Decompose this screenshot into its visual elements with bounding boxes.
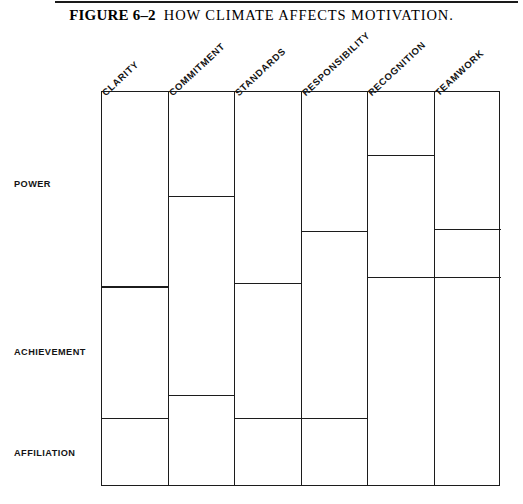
column-divider-2 xyxy=(234,91,235,486)
column-header-commitment: COMMITMENT xyxy=(166,41,226,98)
block-edge-power-recognition xyxy=(367,155,435,156)
block-edge-power-responsibility xyxy=(301,231,368,232)
block-edge-achievement-standards-responsibility xyxy=(234,418,368,419)
block-edge-achievement-commitment xyxy=(168,395,235,396)
row-label-power: POWER xyxy=(14,179,51,189)
column-divider-1 xyxy=(168,91,169,486)
block-edge-achievement-recognition-teamwork xyxy=(367,277,501,278)
row-label-achievement: ACHIEVEMENT xyxy=(14,347,86,357)
block-edge-power-commitment xyxy=(168,196,235,197)
block-edge-power-clarity xyxy=(101,286,169,288)
column-header-responsibility: RESPONSIBILITY xyxy=(299,29,372,98)
column-header-recognition: RECOGNITION xyxy=(365,39,427,98)
block-edge-achievement-clarity xyxy=(101,418,169,419)
column-divider-3 xyxy=(301,91,302,486)
column-divider-4 xyxy=(367,91,368,486)
block-edge-power-teamwork xyxy=(434,229,501,230)
row-label-affiliation: AFFILIATION xyxy=(14,448,75,458)
climate-motivation-matrix: CLARITY COMMITMENT STANDARDS RESPONSIBIL… xyxy=(0,0,523,504)
column-divider-5 xyxy=(434,91,435,486)
block-edge-power-standards xyxy=(234,283,302,284)
